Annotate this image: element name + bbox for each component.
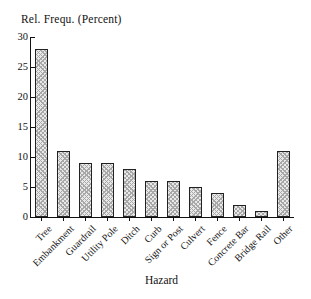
y-tick-label-30: 30 [6, 31, 28, 42]
y-tick-label-25: 25 [6, 61, 28, 72]
bar-concrete-bar [233, 205, 246, 217]
y-tick-15 [31, 127, 35, 128]
y-axis-title: Rel. Frequ. (Percent) [21, 13, 122, 25]
bar-curb [145, 181, 158, 217]
x-tick-concrete-bar [239, 218, 240, 221]
bar-fence [211, 193, 224, 217]
y-tick-label-15: 15 [6, 121, 28, 132]
x-tick-curb [151, 218, 152, 221]
y-tick-0 [31, 217, 35, 218]
y-axis-tick-labels: 051015202530 [2, 37, 28, 217]
y-tick-10 [31, 157, 35, 158]
x-tick-culvert [195, 218, 196, 221]
y-tick-label-20: 20 [6, 91, 28, 102]
bar-utility-pole [101, 163, 114, 217]
y-tick-25 [31, 67, 35, 68]
bar-chart-figure: Rel. Frequ. (Percent) 051015202530 TreeE… [0, 0, 311, 299]
bar-guardrail [79, 163, 92, 217]
bar-other [277, 151, 290, 217]
plot-area: TreeEmbankmentGuardrailUtility PoleDitch… [30, 37, 294, 218]
x-tick-tree [41, 218, 42, 221]
bar-sign-or-post [167, 181, 180, 217]
bar-ditch [123, 169, 136, 217]
y-tick-label-0: 0 [6, 211, 28, 222]
y-tick-30 [31, 37, 35, 38]
x-tick-fence [217, 218, 218, 221]
bar-culvert [189, 187, 202, 217]
x-tick-embankment [63, 218, 64, 221]
y-tick-label-10: 10 [6, 151, 28, 162]
x-tick-utility-pole [107, 218, 108, 221]
x-axis-title: Hazard [30, 274, 293, 286]
bar-embankment [57, 151, 70, 217]
x-tick-bridge-rail [261, 218, 262, 221]
y-tick-5 [31, 187, 35, 188]
bar-bridge-rail [255, 211, 268, 217]
y-tick-20 [31, 97, 35, 98]
bar-tree [35, 49, 48, 217]
y-tick-label-5: 5 [6, 181, 28, 192]
x-tick-guardrail [85, 218, 86, 221]
x-tick-ditch [129, 218, 130, 221]
x-tick-sign-or-post [173, 218, 174, 221]
x-tick-other [283, 218, 284, 221]
